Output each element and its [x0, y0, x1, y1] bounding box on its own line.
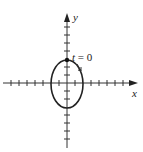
ellipse-diagram: y x t = 0: [0, 0, 143, 152]
start-label: t = 0: [72, 51, 93, 63]
y-axis-arrow-icon: [64, 13, 70, 22]
x-axis-label: x: [131, 87, 137, 99]
start-label-value: = 0: [75, 51, 93, 63]
x-axis: [3, 80, 133, 86]
y-axis-label: y: [72, 11, 78, 23]
start-point-dot: [65, 58, 69, 62]
direction-arrow-icon: [77, 64, 81, 71]
x-axis-arrow-icon: [129, 80, 138, 86]
